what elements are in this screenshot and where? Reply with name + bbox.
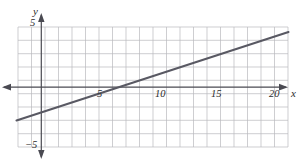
- y-tick-label-minus-5: −5: [25, 140, 37, 151]
- coordinate-plane-figure: y x 5 −5 5 10 15 20: [0, 0, 301, 164]
- x-axis-label: x: [291, 88, 296, 99]
- x-tick-label-10: 10: [155, 89, 166, 100]
- y-axis: [38, 13, 44, 159]
- x-axis-left-arrowhead: [2, 84, 11, 91]
- x-tick-label-15: 15: [211, 89, 222, 100]
- x-tick-label-5: 5: [97, 89, 102, 100]
- graph-canvas: [0, 0, 301, 164]
- x-tick-label-20: 20: [269, 89, 280, 100]
- y-axis-label: y: [33, 6, 38, 17]
- y-axis-top-arrowhead: [38, 13, 44, 22]
- y-axis-bottom-arrowhead: [38, 150, 44, 159]
- x-axis-right-arrowhead: [279, 84, 288, 91]
- y-tick-label-5: 5: [30, 18, 35, 29]
